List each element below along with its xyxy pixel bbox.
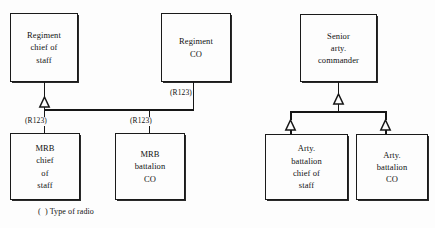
radio-tag-mrb-battalion-co: (R123) (130, 116, 152, 125)
edge-mrb-co-stub (149, 126, 151, 133)
edge-left-bus (44, 109, 194, 111)
node-regiment-co[interactable]: RegimentCO (161, 13, 231, 82)
command-net-diagram: Regimentchief ofstaff RegimentCO (R123) … (0, 0, 435, 228)
node-regiment-chief-of-staff[interactable]: Regimentchief ofstaff (10, 13, 78, 82)
node-label-regiment-chief-of-staff: Regimentchief ofstaff (24, 29, 64, 66)
node-label-arty-battalion-co: Arty.battalionCO (374, 149, 411, 186)
edge-mrb-cos-stub (44, 126, 46, 133)
legend-type-of-radio: ( ) Type of radio (38, 207, 94, 216)
node-label-regiment-co: RegimentCO (176, 35, 216, 60)
node-arty-battalion-co[interactable]: Arty.battalionCO (356, 134, 428, 200)
node-label-mrb-chief-of-staff: MRBchiefofstaff (32, 142, 57, 191)
node-label-senior-arty-commander: Seniorarty.commander (315, 30, 362, 67)
radio-tag-regiment-co: (R123) (170, 88, 192, 97)
node-senior-arty-commander[interactable]: Seniorarty.commander (300, 14, 377, 82)
triangle-connector-arty-battalion-co (380, 119, 391, 130)
radio-tag-mrb-chief-of-staff: (R123) (25, 116, 47, 125)
edge-regiment-co-drop (193, 82, 195, 110)
node-mrb-battalion-co[interactable]: MRBbattalionCO (115, 133, 185, 200)
triangle-connector-senior-arty (333, 93, 344, 104)
edge-right-bus (290, 111, 386, 113)
node-mrb-chief-of-staff[interactable]: MRBchiefofstaff (10, 133, 80, 200)
triangle-connector-regiment-cos (39, 96, 50, 107)
node-label-arty-battalion-chief-of-staff: Arty.battalionchief ofstaff (288, 142, 325, 191)
edge-regiment-cos-drop (44, 82, 46, 97)
node-label-mrb-battalion-co: MRBbattalionCO (132, 148, 169, 185)
triangle-connector-arty-battalion-cos (285, 119, 296, 130)
node-arty-battalion-chief-of-staff[interactable]: Arty.battalionchief ofstaff (265, 134, 348, 200)
